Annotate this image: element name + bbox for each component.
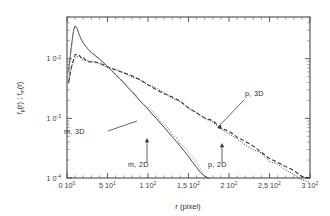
y-title-mid: (r) ; f (15, 93, 24, 110)
x-tick-label: 2,5 102 (258, 180, 281, 190)
x-axis-title: r (pixel) (175, 202, 201, 211)
svg-text:fp(r) ; fm(r): fp(r) ; fm(r) (15, 81, 25, 114)
scientific-plot: 0 1005 1011 1021,5 1022 1022,5 1023 1021… (0, 0, 330, 216)
y-title-end: (r) (15, 81, 24, 89)
x-tick-label: 1,5 102 (177, 180, 200, 190)
annotation-p3d: p, 3D (245, 89, 264, 98)
annotation-p2d: p, 2D (208, 160, 227, 169)
y-axis-title: fp(r) ; fm(r) (15, 81, 25, 114)
annotation-m3d: m, 3D (64, 127, 85, 136)
annotation-m2d: m, 2D (128, 160, 149, 169)
figure-container: 0 1005 1011 1021,5 1022 1022,5 1023 1021… (0, 0, 330, 216)
